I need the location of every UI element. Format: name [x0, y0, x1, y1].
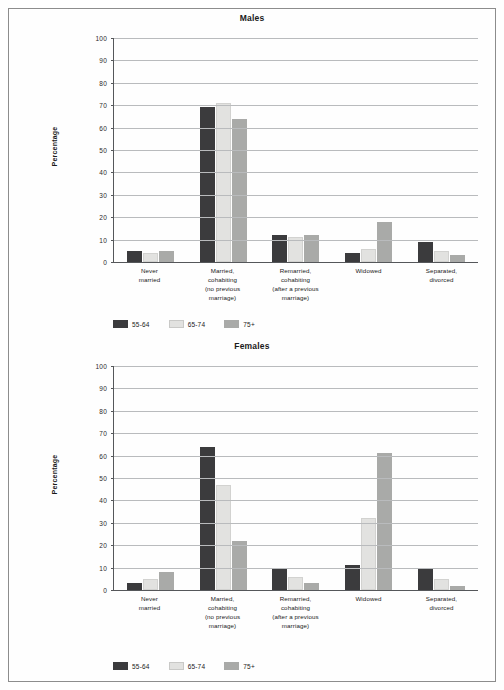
y-axis-tick-mark	[111, 590, 114, 591]
plot-area-males: Percentage 1009080706050403020100 Neverm…	[18, 30, 486, 270]
bar[interactable]	[361, 249, 376, 262]
gridline	[114, 388, 478, 389]
x-axis-category-label: Nevermarried	[113, 594, 186, 630]
bar[interactable]	[159, 251, 174, 262]
y-axis-tick-mark	[111, 83, 114, 84]
chart-panel-females: Females Percentage 100908070605040302010…	[18, 340, 486, 680]
bar[interactable]	[450, 255, 465, 262]
gridline	[114, 83, 478, 84]
gridline	[114, 478, 478, 479]
y-axis-tick-mark	[111, 433, 114, 434]
legend-item[interactable]: 75+	[224, 320, 255, 328]
gridline	[114, 38, 478, 39]
y-axis-label-females: Percentage	[48, 358, 62, 590]
bar[interactable]	[434, 579, 449, 590]
bar[interactable]	[377, 222, 392, 262]
gridline	[114, 105, 478, 106]
y-axis-tick-mark	[111, 411, 114, 412]
y-axis-tick-mark	[111, 172, 114, 173]
gridline	[114, 500, 478, 501]
y-axis-tick-mark	[111, 388, 114, 389]
chart-title-males: Males	[18, 12, 486, 24]
legend-label: 65-74	[188, 321, 206, 328]
gridline	[114, 217, 478, 218]
legend-females: 55-6465-7475+	[113, 662, 478, 670]
bar[interactable]	[288, 577, 303, 590]
y-axis-label-males: Percentage	[48, 30, 62, 262]
bar[interactable]	[127, 251, 142, 262]
x-axis-category-label: Remarried,cohabiting(after a previousmar…	[259, 594, 332, 630]
bar[interactable]	[434, 251, 449, 262]
legend-item[interactable]: 55-64	[113, 320, 150, 328]
bar[interactable]	[272, 568, 287, 590]
legend-swatch	[169, 662, 184, 670]
bar[interactable]	[143, 253, 158, 262]
chart-panel-males: Males Percentage 1009080706050403020100 …	[18, 12, 486, 337]
gridline	[114, 195, 478, 196]
legend-swatch	[113, 662, 128, 670]
gridline	[114, 60, 478, 61]
legend-item[interactable]: 65-74	[169, 662, 206, 670]
plot-area-females: Percentage 1009080706050403020100 Neverm…	[18, 358, 486, 598]
y-axis-tick-mark	[111, 366, 114, 367]
legend-label: 65-74	[188, 663, 206, 670]
legend-swatch	[224, 662, 239, 670]
y-axis-label-text: Percentage	[52, 126, 59, 166]
y-axis-tick-mark	[111, 38, 114, 39]
legend-label: 55-64	[132, 663, 150, 670]
y-axis-tick-mark	[111, 60, 114, 61]
bar[interactable]	[418, 242, 433, 262]
gridline	[114, 456, 478, 457]
bar[interactable]	[288, 237, 303, 262]
gridline	[114, 366, 478, 367]
y-axis-tick-mark	[111, 150, 114, 151]
gridline	[114, 128, 478, 129]
gridline	[114, 240, 478, 241]
legend-item[interactable]: 65-74	[169, 320, 206, 328]
x-axis-labels-males: NevermarriedMarried,cohabiting(no previo…	[113, 266, 478, 302]
x-axis-labels-females: NevermarriedMarried,cohabiting(no previo…	[113, 594, 478, 630]
bar[interactable]	[361, 518, 376, 590]
y-axis-tick-mark	[111, 262, 114, 263]
x-axis-category-label: Married,cohabiting(no previousmarriage)	[186, 266, 259, 302]
gridline	[114, 172, 478, 173]
bar[interactable]	[143, 579, 158, 590]
bar[interactable]	[159, 572, 174, 590]
y-axis-tick-mark	[111, 217, 114, 218]
y-axis-tick-mark	[111, 105, 114, 106]
legend-swatch	[224, 320, 239, 328]
bar[interactable]	[232, 541, 247, 590]
gridline	[114, 523, 478, 524]
legend-item[interactable]: 55-64	[113, 662, 150, 670]
x-axis-category-label: Widowed	[332, 266, 405, 302]
y-axis-tick-mark	[111, 523, 114, 524]
bar[interactable]	[127, 583, 142, 590]
legend-item[interactable]: 75+	[224, 662, 255, 670]
y-axis-tick-mark	[111, 568, 114, 569]
chart-page: Males Percentage 1009080706050403020100 …	[0, 0, 504, 690]
x-axis-category-label: Remarried,cohabiting(after a previousmar…	[259, 266, 332, 302]
bar[interactable]	[377, 453, 392, 590]
bar[interactable]	[345, 253, 360, 262]
legend-males: 55-6465-7475+	[113, 320, 478, 328]
bar[interactable]	[304, 583, 319, 590]
x-axis-category-label: Married,cohabiting(no previousmarriage)	[186, 594, 259, 630]
bar[interactable]	[345, 565, 360, 590]
y-axis-tick-mark	[111, 456, 114, 457]
y-axis-tick-mark	[111, 500, 114, 501]
y-axis-tick-mark	[111, 240, 114, 241]
bar[interactable]	[418, 568, 433, 590]
y-axis-tick-mark	[111, 195, 114, 196]
gridline	[114, 545, 478, 546]
gridline	[114, 568, 478, 569]
y-axis-label-text: Percentage	[52, 454, 59, 494]
legend-label: 75+	[243, 663, 255, 670]
legend-label: 55-64	[132, 321, 150, 328]
x-axis-category-label: Separated,divorced	[405, 266, 478, 302]
gridline	[114, 433, 478, 434]
y-axis-tick-mark	[111, 478, 114, 479]
bar[interactable]	[450, 586, 465, 590]
legend-swatch	[113, 320, 128, 328]
x-axis-category-label: Widowed	[332, 594, 405, 630]
gridline	[114, 411, 478, 412]
